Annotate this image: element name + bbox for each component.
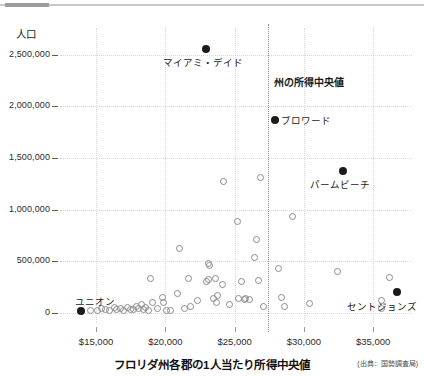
gridline-horizontal xyxy=(60,158,412,159)
gridline-horizontal xyxy=(60,210,412,211)
data-point xyxy=(160,299,167,306)
data-point xyxy=(255,277,262,284)
y-axis-title: 人口 xyxy=(16,26,36,41)
x-axis-tick-mark xyxy=(235,327,236,332)
y-axis-tick-mark xyxy=(52,313,58,314)
data-point xyxy=(257,174,264,181)
data-point xyxy=(246,296,253,303)
data-point-highlighted xyxy=(202,45,210,53)
y-axis-tick-mark xyxy=(52,55,58,56)
data-point xyxy=(386,274,393,281)
x-axis-tick-mark xyxy=(96,327,97,332)
gridline-vertical xyxy=(96,28,97,322)
data-point xyxy=(226,301,233,308)
data-point xyxy=(306,300,313,307)
data-point xyxy=(174,290,181,297)
gridline-horizontal xyxy=(60,106,412,107)
annotation-miami-dade: マイアミ・デイド xyxy=(163,55,243,69)
data-point xyxy=(206,262,213,269)
data-point-highlighted xyxy=(77,307,85,315)
data-point xyxy=(238,278,245,285)
x-axis-tick-mark xyxy=(304,327,305,332)
x-axis-tick-label: $30,000 xyxy=(287,336,321,347)
annotation-palm-beach: パームビーチ xyxy=(310,177,370,191)
data-point xyxy=(214,292,221,299)
gridline-horizontal xyxy=(60,261,412,262)
gridline-vertical xyxy=(304,28,305,322)
data-point xyxy=(334,268,341,275)
annotation-st-johns: セントジョンズ xyxy=(347,299,417,313)
y-axis-tick-mark xyxy=(52,261,58,262)
x-axis-tick-label: $25,000 xyxy=(217,336,251,347)
annotation-state-median: 州の所得中央値 xyxy=(274,74,344,89)
y-axis-tick-label: 2,500,000 xyxy=(9,49,50,59)
y-axis-tick-label: 2,000,000 xyxy=(9,100,50,110)
gridline-vertical xyxy=(235,28,236,322)
data-point-highlighted xyxy=(393,288,401,296)
x-axis-tick-mark xyxy=(373,327,374,332)
x-axis-tick-mark xyxy=(165,327,166,332)
y-axis-tick-label: 500,000 xyxy=(17,255,50,265)
data-point xyxy=(154,305,161,312)
data-point xyxy=(281,303,288,310)
x-axis-tick-label: $35,000 xyxy=(356,336,390,347)
source-note: (出典：国勢調査局) xyxy=(357,358,418,368)
y-axis-tick-mark xyxy=(52,106,58,107)
data-point xyxy=(251,254,258,261)
scatter-plot-figure: 人口 フロリダ州各郡の1人当たり所得中央値 (出典：国勢調査局) マイアミ・デイ… xyxy=(0,0,424,376)
data-point xyxy=(260,303,267,310)
y-axis-tick-label: 1,000,000 xyxy=(9,204,50,214)
data-point xyxy=(185,275,192,282)
gridline-vertical xyxy=(165,28,166,322)
y-axis-tick-mark xyxy=(52,158,58,159)
annotation-union: ユニオン xyxy=(75,294,115,308)
data-point xyxy=(194,297,201,304)
data-point xyxy=(220,178,227,185)
data-point xyxy=(212,275,219,282)
plot-area xyxy=(60,28,412,322)
data-point xyxy=(147,275,154,282)
data-point xyxy=(187,303,194,310)
data-point-highlighted xyxy=(271,116,279,124)
data-point xyxy=(176,245,183,252)
x-axis-tick-label: $20,000 xyxy=(148,336,182,347)
y-axis-tick-label: 0 xyxy=(45,307,50,317)
data-point xyxy=(234,218,241,225)
gridline-vertical xyxy=(373,28,374,322)
annotation-broward: ブロワード xyxy=(281,113,331,127)
data-point xyxy=(167,307,174,314)
data-point xyxy=(278,294,285,301)
data-point xyxy=(275,265,282,272)
data-point xyxy=(289,213,296,220)
y-axis-tick-mark xyxy=(52,210,58,211)
data-point xyxy=(205,276,212,283)
state-median-reference-line xyxy=(268,24,269,332)
data-point-highlighted xyxy=(339,167,347,175)
y-axis-tick-label: 1,500,000 xyxy=(9,152,50,162)
data-point xyxy=(219,281,226,288)
data-point xyxy=(253,236,260,243)
data-point xyxy=(213,299,220,306)
x-axis-tick-label: $15,000 xyxy=(79,336,113,347)
